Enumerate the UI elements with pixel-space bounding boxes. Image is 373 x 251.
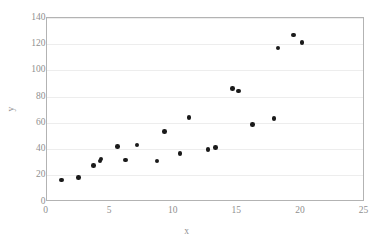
data-point <box>230 86 235 91</box>
data-point <box>213 145 218 150</box>
scatter-chart: 020406080100120140 0510152025 x y <box>0 0 373 251</box>
y-tick-label: 120 <box>31 38 45 48</box>
x-tick-label: 5 <box>97 205 121 215</box>
y-tick-label: 100 <box>31 64 45 74</box>
data-point <box>187 115 192 120</box>
data-point <box>291 33 296 38</box>
data-point <box>76 175 81 180</box>
x-tick-label: 25 <box>352 205 373 215</box>
data-point <box>276 46 281 51</box>
data-point <box>178 151 183 156</box>
data-point <box>59 178 64 183</box>
data-point <box>162 129 167 134</box>
plot-area <box>46 17 364 201</box>
x-tick-label: 15 <box>224 205 248 215</box>
y-tick-label: 20 <box>36 169 46 179</box>
data-point <box>250 122 255 127</box>
y-tick-label: 40 <box>36 143 46 153</box>
x-tick-label: 0 <box>34 205 58 215</box>
y-tick-label: 140 <box>31 12 45 22</box>
y-tick-label: 60 <box>36 117 46 127</box>
data-point <box>115 144 120 149</box>
data-point <box>135 143 140 148</box>
x-tick-label: 20 <box>288 205 312 215</box>
x-tick-label: 10 <box>161 205 185 215</box>
x-axis-title: x <box>0 226 373 236</box>
data-point <box>123 158 128 163</box>
data-point <box>99 157 104 162</box>
data-point <box>91 163 96 168</box>
data-points-layer <box>47 18 363 200</box>
data-point <box>155 159 160 164</box>
y-axis-title: y <box>6 100 16 118</box>
data-point <box>206 147 211 152</box>
y-tick-label: 80 <box>36 91 46 101</box>
data-point <box>300 40 305 45</box>
data-point <box>236 89 241 94</box>
data-point <box>272 116 277 121</box>
